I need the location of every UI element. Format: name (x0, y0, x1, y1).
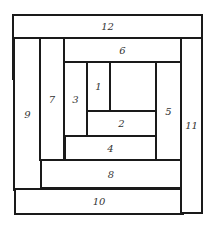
piece-label: 12 (101, 21, 114, 32)
piece-9: 9 (13, 37, 42, 191)
piece-label: 11 (185, 120, 198, 131)
piece-label: 2 (118, 118, 124, 129)
piece-11: 11 (180, 37, 203, 214)
piece-label: 4 (107, 143, 113, 154)
piece-5: 5 (155, 61, 182, 161)
piece-label: 1 (95, 81, 101, 92)
piece-label: 10 (93, 196, 106, 207)
piece-10: 10 (14, 188, 184, 215)
piece-7: 7 (39, 37, 65, 161)
piece-2: 2 (86, 110, 157, 137)
piece-label: 6 (119, 45, 125, 56)
piece-8: 8 (40, 159, 182, 189)
piece-6: 6 (63, 37, 182, 63)
piece-label: 3 (72, 94, 78, 105)
piece-1: 1 (86, 61, 111, 112)
piece-label: 5 (165, 106, 171, 117)
piece-label: 8 (108, 169, 114, 180)
piece-4: 4 (64, 135, 157, 161)
piece-label: 7 (49, 94, 55, 105)
piece-12: 12 (12, 14, 203, 39)
piece-label: 9 (24, 109, 30, 120)
piece-center (109, 61, 157, 112)
piece-3: 3 (63, 61, 88, 137)
